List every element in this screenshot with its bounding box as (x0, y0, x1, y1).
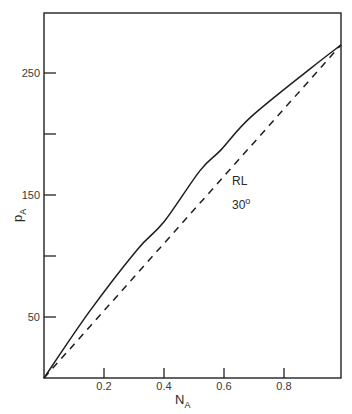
x-tick-label: 0.4 (156, 380, 171, 392)
chart: 50150250 0.20.40.60.8 RL30o NA pA (0, 0, 352, 414)
y-axis-title: pA (10, 209, 28, 222)
plot-frame (44, 13, 341, 378)
x-tick-label: 0.6 (216, 380, 231, 392)
x-tick-label: 0.8 (276, 380, 291, 392)
dashed-line-series (44, 45, 341, 378)
x-axis-title: NA (175, 392, 190, 410)
y-axis-ticks: 50150250 (22, 67, 56, 323)
y-tick-label: 250 (22, 67, 40, 79)
chart-canvas: 50150250 0.20.40.60.8 RL30o NA pA (0, 0, 352, 414)
annotation-label: 30o (232, 196, 250, 212)
chart-series (44, 45, 341, 378)
chart-annotations: RL30o (232, 174, 250, 212)
x-tick-label: 0.2 (96, 380, 111, 392)
x-axis-ticks: 0.20.40.60.8 (96, 368, 291, 392)
y-tick-label: 50 (28, 311, 40, 323)
y-tick-label: 150 (22, 189, 40, 201)
annotation-label: RL (232, 174, 248, 188)
